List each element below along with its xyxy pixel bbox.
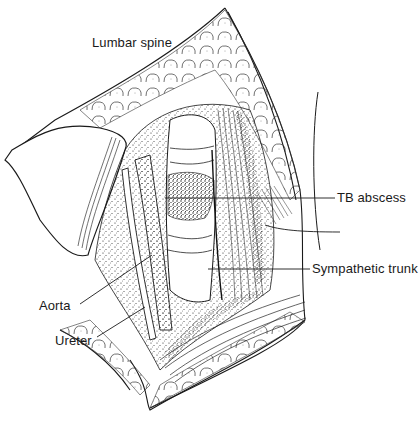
label-lumbar-spine: Lumbar spine [92, 36, 172, 49]
label-ureter: Ureter [55, 334, 92, 347]
label-tb-abscess: TB abscess [337, 191, 406, 204]
fat-layer-left [60, 320, 150, 395]
skin-fold-right [314, 92, 320, 250]
anatomical-illustration [0, 0, 420, 424]
label-aorta: Aorta [39, 299, 71, 312]
label-sympathetic-trunk: Sympathetic trunk [312, 262, 418, 275]
tb-abscess-lesion [168, 172, 214, 220]
